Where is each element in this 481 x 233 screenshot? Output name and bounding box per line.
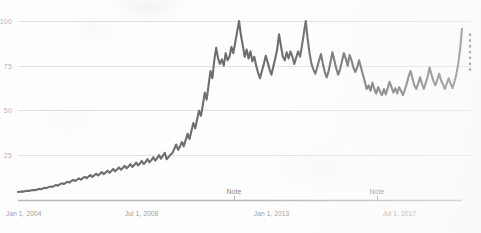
y-tick-50: 50	[4, 107, 12, 114]
x-axis-tick-labels: Jan 1, 2004Jul 1, 2008Jan 1, 2013Jul 1, …	[6, 210, 416, 217]
line-chart: 255075100 NoteNote Jan 1, 2004Jul 1, 200…	[0, 0, 481, 233]
note-label-0: Note	[226, 188, 241, 195]
y-tick-25: 25	[4, 152, 12, 159]
note-annotations: NoteNote	[226, 188, 384, 195]
x-tick-3: Jul 1, 2017	[383, 210, 417, 217]
x-tick-2: Jan 1, 2013	[254, 210, 290, 217]
y-axis-tick-labels: 255075100	[0, 18, 12, 159]
x-tick-1: Jul 1, 2008	[125, 210, 159, 217]
data-series-line	[18, 21, 462, 192]
y-tick-100: 100	[0, 18, 12, 25]
note-label-1: Note	[369, 188, 384, 195]
y-tick-75: 75	[4, 63, 12, 70]
chart-plot-area: 255075100 NoteNote Jan 1, 2004Jul 1, 200…	[0, 0, 481, 233]
x-tick-0: Jan 1, 2004	[6, 210, 42, 217]
gridlines	[18, 22, 472, 156]
